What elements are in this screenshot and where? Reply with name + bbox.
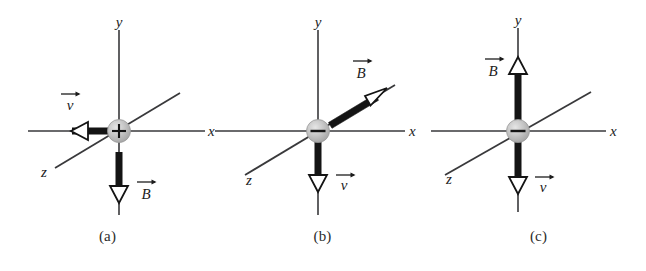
velocity-vector: [509, 140, 527, 194]
magnetic-field-label-vector-arrowhead-icon: [368, 58, 373, 63]
magnetic-field-vector-shaft: [515, 72, 522, 120]
velocity-arrowhead-icon: [71, 122, 88, 140]
velocity-vector: [309, 140, 327, 192]
axis-label-x: x: [609, 123, 617, 139]
magnetic-field-label-vector-arrowhead-icon: [152, 179, 157, 184]
axis-label-z: z: [40, 164, 47, 180]
axis-label-z: z: [245, 172, 252, 188]
velocity-arrowhead-icon: [509, 177, 527, 194]
panel-c-canvas: y x z B v: [431, 0, 646, 230]
velocity-label: v: [540, 179, 547, 195]
panel-a: y x z v B: [0, 0, 215, 271]
charge-marker: [307, 120, 330, 143]
velocity-label: v: [67, 97, 74, 113]
velocity-label-vector-arrowhead-icon: [550, 174, 555, 179]
magnetic-field-label: B: [488, 63, 497, 79]
axis-label-y: y: [513, 12, 522, 28]
velocity-arrowhead-icon: [309, 175, 327, 192]
velocity-vector-shaft: [515, 140, 522, 180]
axis-label-x: x: [207, 123, 215, 139]
velocity-label-vector-arrowhead-icon: [351, 172, 356, 177]
magnetic-field-vector: [509, 57, 527, 120]
magnetic-field-vector: [110, 152, 128, 203]
velocity-vector: [71, 122, 110, 140]
velocity-label-group: v: [336, 172, 356, 193]
charge-marker: [507, 120, 530, 143]
magnetic-field-label: B: [356, 65, 365, 81]
magnetic-field-label: B: [141, 186, 150, 202]
axis-label-y: y: [313, 14, 322, 30]
charge-marker: [108, 120, 131, 143]
panel-caption-c: (c): [431, 228, 646, 245]
velocity-label-vector-arrowhead-icon: [76, 91, 81, 96]
velocity-vector-shaft: [315, 140, 322, 179]
magnetic-field-label-group: B: [485, 56, 505, 79]
magnetic-field-label-vector-arrowhead-icon: [500, 56, 505, 61]
axis-label-x: x: [408, 123, 416, 139]
panel-a-canvas: y x z v B: [0, 0, 215, 230]
panel-b-canvas: y x z B v: [215, 0, 430, 230]
magnetic-field-arrowhead-icon: [110, 186, 128, 203]
magnetic-field-label-group: B: [137, 179, 157, 202]
magnetic-field-vector: [329, 88, 388, 128]
magnetic-field-label-group: B: [353, 58, 373, 81]
velocity-label-group: v: [535, 174, 555, 195]
axis-label-z: z: [445, 171, 452, 187]
magnetic-field-arrowhead-icon: [365, 88, 387, 106]
panel-b: y x z B v: [215, 0, 430, 271]
magnetic-field-arrowhead-icon: [509, 57, 527, 74]
physics-vector-diagram-figure: y x z v B: [0, 0, 646, 271]
panel-caption-b: (b): [215, 228, 430, 245]
panel-c: y x z B v: [431, 0, 646, 271]
velocity-label-group: v: [61, 91, 81, 113]
panel-caption-a: (a): [0, 228, 215, 245]
axis-label-y: y: [114, 14, 123, 30]
velocity-label: v: [341, 177, 348, 193]
